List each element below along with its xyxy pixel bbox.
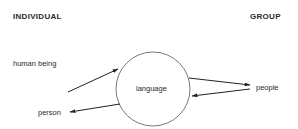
people-label: people [256,83,279,92]
arrow-language-to-person [70,104,120,112]
arrow-language-to-people [189,78,250,85]
arrow-human-being-to-language [68,69,118,92]
person-label: person [38,108,61,117]
human-being-label: human being [13,59,56,68]
language-label: language [136,84,167,93]
arrow-people-to-language [192,89,250,96]
